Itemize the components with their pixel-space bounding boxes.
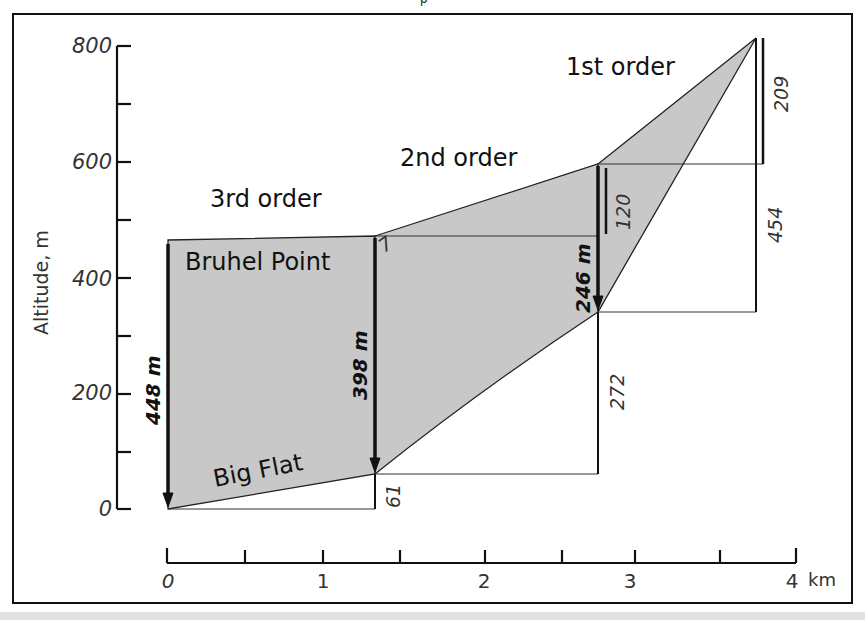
bottom-band bbox=[0, 612, 865, 620]
label-1st-order: 1st order bbox=[566, 53, 675, 81]
y-axis-label: Altitude, m bbox=[30, 230, 52, 335]
drop-246-label: 246 m bbox=[571, 243, 595, 313]
y-tick-200: 200 bbox=[72, 381, 112, 405]
y-axis bbox=[117, 46, 131, 509]
x-tick-4: 4 bbox=[786, 569, 799, 593]
rise-454-label: 454 bbox=[764, 207, 786, 243]
y-axis-tick-labels: 0 200 400 600 800 bbox=[72, 34, 112, 521]
drop-398-label: 398 m bbox=[348, 330, 372, 400]
rise-272-label: 272 bbox=[606, 374, 628, 410]
rise-61-label: 61 bbox=[382, 484, 404, 508]
x-axis bbox=[167, 548, 796, 563]
stream-order-diagram: 0 200 400 600 800 Altitude, m 0 1 2 3 4 … bbox=[0, 0, 865, 620]
region-2nd-order bbox=[375, 164, 598, 474]
label-2nd-order: 2nd order bbox=[400, 144, 517, 172]
y-tick-800: 800 bbox=[72, 34, 112, 58]
label-bruhel-point: Bruhel Point bbox=[185, 248, 330, 276]
rise-120-label: 120 bbox=[612, 194, 634, 230]
x-axis-tick-labels: 0 1 2 3 4 km bbox=[162, 569, 836, 593]
x-tick-3: 3 bbox=[624, 569, 637, 593]
y-tick-0: 0 bbox=[99, 497, 112, 521]
x-tick-1: 1 bbox=[317, 569, 330, 593]
label-3rd-order: 3rd order bbox=[210, 185, 322, 213]
y-tick-600: 600 bbox=[72, 150, 112, 174]
rise-209-label: 209 bbox=[770, 76, 792, 112]
drop-448-label: 448 m bbox=[141, 355, 165, 426]
x-tick-0: 0 bbox=[162, 569, 175, 593]
x-tick-2: 2 bbox=[478, 569, 491, 593]
y-tick-400: 400 bbox=[72, 267, 112, 291]
x-axis-unit: km bbox=[808, 569, 836, 590]
